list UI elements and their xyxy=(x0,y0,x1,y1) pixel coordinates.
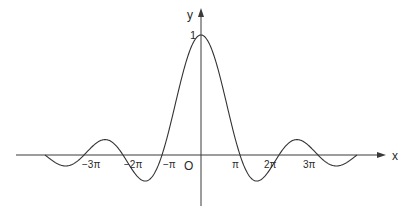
y-axis-arrow-icon xyxy=(198,8,204,17)
x-tick-label-2pi: 2π xyxy=(264,159,277,170)
x-tick-label-neg2pi: −2π xyxy=(124,159,142,170)
x-tick-label-negpi: −π xyxy=(163,159,176,170)
x-tick-label-3pi: 3π xyxy=(303,159,316,170)
x-tick-label-pi: π xyxy=(232,159,239,170)
x-axis-label: x xyxy=(392,149,398,163)
y-tick-label-1: 1 xyxy=(190,29,196,41)
origin-label: O xyxy=(184,159,193,173)
x-axis-arrow-icon xyxy=(377,152,386,158)
y-axis-label: y xyxy=(187,8,193,22)
sinc-function-plot: x y 1 O −3π −2π −π π 2π 3π xyxy=(0,0,412,214)
x-tick-label-neg3pi: −3π xyxy=(82,159,100,170)
